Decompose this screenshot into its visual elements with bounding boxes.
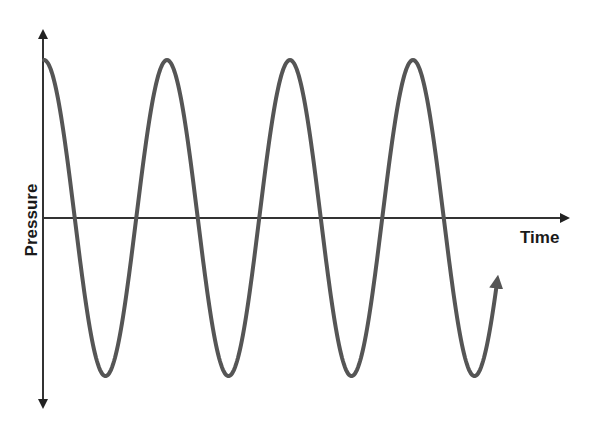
pressure-time-diagram: Time Pressure bbox=[0, 0, 590, 425]
x-axis-label: Time bbox=[520, 228, 559, 247]
y-axis-label: Pressure bbox=[22, 184, 41, 257]
